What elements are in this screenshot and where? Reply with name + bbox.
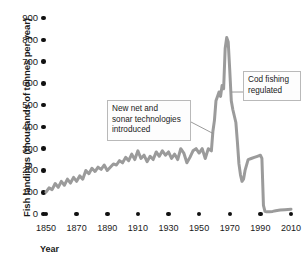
annotation-cod-fishing-regulated: Cod fishing regulated xyxy=(243,71,301,101)
annotation-new-net-sonar: New net and sonar technologies introduce… xyxy=(107,100,191,141)
chart-container: Fish landings (thousands of tonnes per y… xyxy=(0,0,307,265)
annotation-leader-line-tech xyxy=(191,122,213,133)
